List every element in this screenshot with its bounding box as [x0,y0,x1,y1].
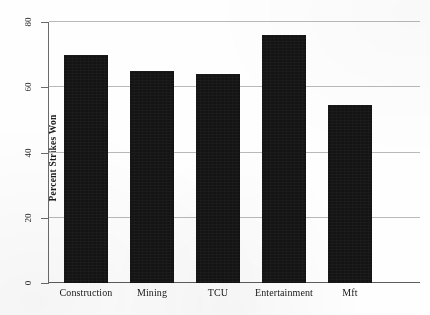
y-tick-label-40: 40 [23,145,33,161]
bar [196,74,240,283]
y-tick-mark-20 [41,218,48,219]
y-tick-mark-40 [41,153,48,154]
x-axis-label: Mft [284,287,416,298]
bar [64,55,108,283]
y-tick-mark-60 [41,87,48,88]
bar-texture [130,71,174,283]
y-tick-mark-80 [41,22,48,23]
gridline-80 [49,21,420,22]
bar [130,71,174,283]
bar-texture [328,105,372,283]
bar-texture [262,35,306,283]
y-tick-label-60: 60 [23,79,33,95]
plot-area [49,22,420,283]
bar-texture [196,74,240,283]
y-tick-label-20: 20 [23,210,33,226]
y-tick-label-80: 80 [23,14,33,30]
y-tick-mark-0 [41,283,48,284]
bar [328,105,372,283]
bar [262,35,306,283]
bar-chart-figure: Percent Strikes Won 020406080 Constructi… [0,0,430,315]
bar-texture [64,55,108,283]
